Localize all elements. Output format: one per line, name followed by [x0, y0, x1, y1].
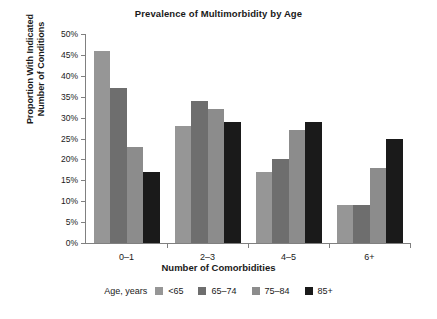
- x-axis-title: Number of Comorbidities: [0, 262, 437, 273]
- legend-swatch-icon: [198, 287, 206, 295]
- y-axis-title: Proportion With Indicated Number of Cond…: [20, 0, 52, 169]
- x-axis-tick: [248, 243, 249, 248]
- legend-label: 75–84: [265, 286, 290, 296]
- y-axis-tick: [81, 180, 86, 181]
- x-axis-tick: [410, 243, 411, 248]
- y-axis-title-line-1: Proportion With Indicated: [25, 14, 37, 124]
- bar: [272, 159, 289, 243]
- x-axis-tick-label: 2–3: [200, 252, 215, 262]
- y-axis-tick: [81, 201, 86, 202]
- bar: [386, 139, 403, 244]
- y-axis-tick-label: 0%: [66, 238, 78, 248]
- x-axis-tick-label: 4–5: [281, 252, 296, 262]
- legend-swatch-icon: [252, 287, 260, 295]
- bar: [127, 147, 144, 243]
- bar: [224, 122, 241, 243]
- y-axis-tick: [81, 55, 86, 56]
- legend-label: 85+: [318, 286, 333, 296]
- y-axis-tick-label: 20%: [61, 154, 78, 164]
- bar-chart-figure: Prevalence of Multimorbidity by Age Prop…: [0, 0, 437, 319]
- y-axis-tick: [81, 222, 86, 223]
- x-axis-tick-label: 0–1: [119, 252, 134, 262]
- legend-title: Age, years: [104, 286, 147, 296]
- y-axis-tick: [81, 159, 86, 160]
- legend-entry[interactable]: <65: [155, 286, 183, 296]
- bar: [94, 51, 111, 243]
- bar: [289, 130, 306, 243]
- legend-entry[interactable]: 85+: [305, 286, 333, 296]
- bar: [353, 205, 370, 243]
- y-axis-tick-label: 10%: [61, 196, 78, 206]
- legend-label: <65: [168, 286, 183, 296]
- y-axis-tick: [81, 139, 86, 140]
- legend-swatch-icon: [305, 287, 313, 295]
- legend-label: 65–74: [211, 286, 236, 296]
- y-axis-tick-label: 15%: [61, 175, 78, 185]
- chart-title: Prevalence of Multimorbidity by Age: [0, 8, 437, 19]
- y-axis-tick: [81, 34, 86, 35]
- y-axis-tick-label: 5%: [66, 217, 78, 227]
- y-axis-tick-label: 30%: [61, 113, 78, 123]
- y-axis-tick-label: 35%: [61, 92, 78, 102]
- chart-legend: Age, years <6565–7475–8485+: [0, 286, 437, 296]
- y-axis-tick-label: 25%: [61, 134, 78, 144]
- x-axis-tick: [329, 243, 330, 248]
- y-axis-tick: [81, 76, 86, 77]
- y-axis-tick: [81, 243, 86, 244]
- bar: [191, 101, 208, 243]
- y-axis-tick-label: 40%: [61, 71, 78, 81]
- x-axis-tick: [167, 243, 168, 248]
- y-axis-tick: [81, 97, 86, 98]
- bar: [305, 122, 322, 243]
- plot-area: 0%5%10%15%20%25%30%35%40%45%50% 0–12–34–…: [86, 34, 410, 243]
- x-axis-tick-label: 6+: [364, 252, 374, 262]
- bar: [208, 109, 225, 243]
- legend-entry[interactable]: 75–84: [252, 286, 290, 296]
- y-axis-tick-label: 50%: [61, 29, 78, 39]
- legend-entry[interactable]: 65–74: [198, 286, 236, 296]
- y-axis-tick-label: 45%: [61, 50, 78, 60]
- bar: [175, 126, 192, 243]
- bar: [337, 205, 354, 243]
- legend-swatch-icon: [155, 287, 163, 295]
- bar: [370, 168, 387, 243]
- bar: [110, 88, 127, 243]
- bar: [143, 172, 160, 243]
- bar: [256, 172, 273, 243]
- y-axis-tick: [81, 118, 86, 119]
- y-axis-title-line-2: Number of Conditions: [36, 22, 48, 117]
